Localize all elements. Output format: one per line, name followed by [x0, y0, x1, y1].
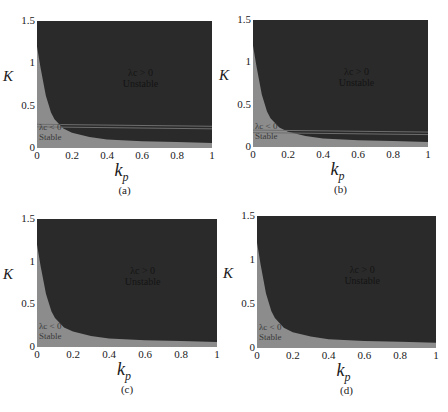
x-tick-label: 1 [205, 349, 229, 360]
y-tick-label: 1 [13, 57, 35, 68]
panel-caption: (d) [332, 384, 362, 396]
panel-caption: (c) [112, 383, 142, 395]
x-axis-label: kp [337, 360, 351, 385]
x-tick-label: 0.8 [381, 149, 405, 160]
x-tick-label: 0 [25, 349, 49, 360]
y-tick-label: 1 [233, 254, 255, 265]
x-tick-label: 1 [424, 350, 448, 361]
unstable-region-label: λc > 0Unstable [113, 265, 173, 287]
stable-region [37, 46, 212, 148]
y-tick-label: 0.5 [229, 99, 251, 110]
stable-region-label: λc < 0Stable [39, 321, 62, 341]
x-tick-label: 1 [200, 150, 224, 161]
panel-caption: (a) [110, 184, 140, 196]
y-tick-label: 1.5 [233, 210, 255, 221]
panel-caption: (b) [326, 183, 356, 195]
x-tick-label: 0.6 [352, 350, 376, 361]
x-tick-label: 0.6 [133, 349, 157, 360]
x-tick-label: 1 [416, 149, 440, 160]
y-tick-label: 1 [13, 256, 35, 267]
y-tick-label: 1.5 [13, 15, 35, 26]
x-axis-label: kp [331, 159, 345, 184]
stable-region-label: λc < 0Stable [39, 122, 62, 142]
x-tick-label: 0.8 [169, 349, 193, 360]
x-tick-label: 0 [25, 150, 49, 161]
y-axis-label: K [223, 265, 233, 282]
stable-region-label: λc < 0Stable [255, 121, 278, 141]
y-tick-label: 0.5 [13, 100, 35, 111]
reference-line [37, 124, 212, 126]
y-tick-label: 0.5 [233, 298, 255, 309]
stable-region-label: λc < 0Stable [259, 322, 282, 342]
y-tick-label: 1 [229, 56, 251, 67]
x-tick-label: 0.6 [130, 150, 154, 161]
unstable-region-label: λc > 0Unstable [111, 67, 171, 89]
x-tick-label: 0.2 [60, 150, 84, 161]
unstable-region-label: λc > 0Unstable [327, 66, 387, 88]
x-tick-label: 0.2 [276, 149, 300, 160]
x-tick-label: 0.2 [281, 350, 305, 361]
x-axis-label: kp [117, 359, 131, 384]
x-tick-label: 0 [241, 149, 265, 160]
x-tick-label: 0.8 [165, 150, 189, 161]
y-tick-label: 1.5 [13, 213, 35, 224]
x-tick-label: 0.6 [346, 149, 370, 160]
y-tick-label: 1.5 [229, 14, 251, 25]
y-axis-label: K [3, 266, 13, 283]
unstable-region-label: λc > 0Unstable [332, 264, 392, 286]
y-axis-label: K [3, 68, 13, 85]
y-tick-label: 0.5 [13, 298, 35, 309]
x-axis-label: kp [115, 160, 129, 185]
stable-region [257, 242, 436, 348]
stable-region [37, 245, 217, 347]
x-tick-label: 0 [245, 350, 269, 361]
x-tick-label: 0.2 [61, 349, 85, 360]
y-axis-label: K [219, 67, 229, 84]
x-tick-label: 0.8 [388, 350, 412, 361]
